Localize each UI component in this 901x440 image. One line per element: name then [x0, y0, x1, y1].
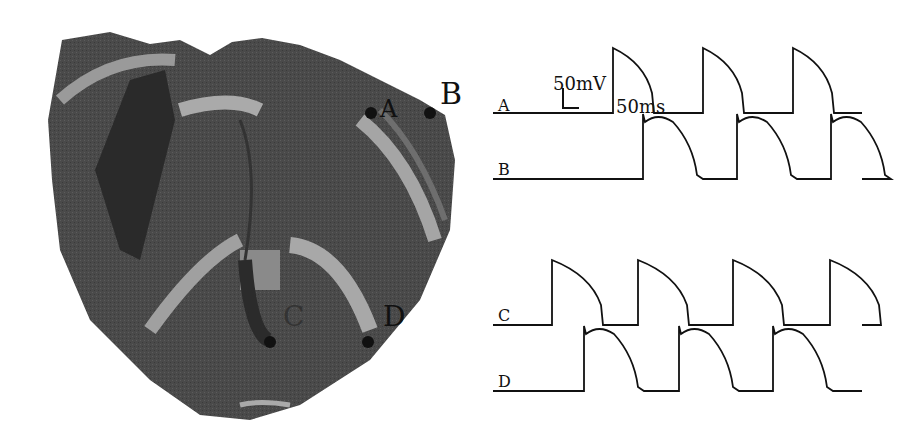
- trace-c: [493, 260, 881, 325]
- action-potential-traces: [0, 0, 901, 440]
- trace-a: [493, 48, 862, 113]
- trace-b: [493, 114, 891, 179]
- trace-d: [493, 326, 862, 391]
